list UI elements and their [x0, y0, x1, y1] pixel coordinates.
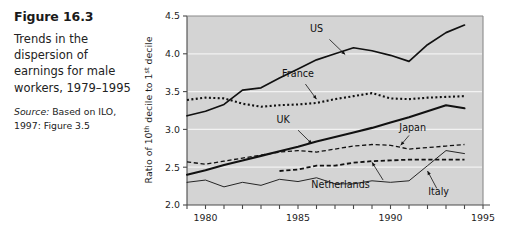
line-chart: 2.02.53.03.54.04.5 1980198519901995 Rati… [0, 0, 517, 235]
y-tick-label: 4.5 [165, 10, 180, 21]
chart-svg: 2.02.53.03.54.04.5 1980198519901995 Rati… [0, 0, 517, 235]
figure-panel: Figure 16.3 Trends in the dispersion of … [0, 0, 517, 235]
series-label-france: France [282, 68, 314, 79]
series-label-netherlands: Netherlands [311, 179, 369, 190]
x-axis-tick-labels: 1980198519901995 [194, 212, 495, 223]
x-tick-label: 1995 [471, 212, 495, 223]
series-label-uk: UK [277, 114, 291, 125]
y-axis-ticks [183, 16, 187, 205]
series-label-us: US [310, 23, 323, 34]
y-tick-label: 3.5 [165, 86, 180, 97]
series-label-japan: Japan [398, 122, 426, 133]
x-tick-label: 1985 [286, 212, 310, 223]
y-tick-label: 2.5 [165, 162, 180, 173]
series-label-italy: Italy [428, 186, 449, 197]
y-tick-label: 4.0 [165, 48, 180, 59]
y-tick-label: 2.0 [165, 199, 180, 210]
y-tick-label: 3.0 [165, 124, 180, 135]
y-axis-tick-labels: 2.02.53.03.54.04.5 [165, 10, 180, 210]
x-tick-label: 1980 [194, 212, 218, 223]
y-axis-title: Ratio of 10th decile to 1st decile [143, 36, 154, 183]
x-tick-label: 1990 [379, 212, 403, 223]
x-axis-ticks [187, 205, 483, 209]
